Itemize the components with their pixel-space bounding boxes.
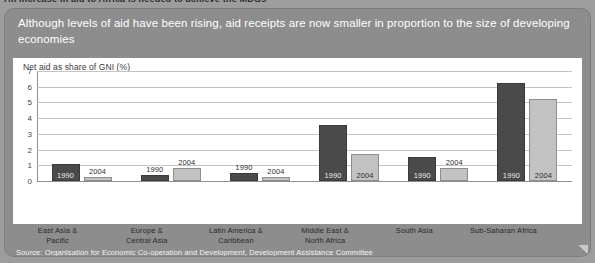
chart-title: Although levels of aid have been rising,… bbox=[5, 9, 590, 56]
bar-year-label-2004: 2004 bbox=[262, 167, 290, 176]
bar-group: 19902004 bbox=[319, 71, 379, 181]
bar-year-label-1990: 1990 bbox=[52, 171, 80, 180]
axis-x-line bbox=[37, 181, 572, 182]
y-axis-tick-7: 7 bbox=[18, 71, 32, 72]
bar-year-label-2004: 2004 bbox=[351, 171, 379, 180]
bar-year-label-1990: 1990 bbox=[230, 163, 258, 172]
category-label-6: Sub-Saharan Africa bbox=[451, 226, 556, 236]
bar-1990[interactable] bbox=[497, 83, 525, 181]
bar-year-label-2004: 2004 bbox=[529, 171, 557, 180]
bar-year-label-2004: 2004 bbox=[84, 167, 112, 176]
source-note: Source: Organisation for Economic Co-ope… bbox=[16, 248, 373, 256]
y-axis-tick-1: 1 bbox=[18, 165, 32, 166]
category-label-line: North Africa bbox=[273, 236, 378, 246]
bar-group: 19902004 bbox=[497, 71, 557, 181]
figure-page: An increase in aid to Africa is needed t… bbox=[0, 0, 595, 263]
bar-year-label-1990: 1990 bbox=[497, 171, 525, 180]
bar-1990[interactable] bbox=[230, 173, 258, 181]
page-corner-fold bbox=[579, 245, 588, 254]
y-axis-tick-5: 5 bbox=[18, 102, 32, 103]
y-axis-tick-4: 4 bbox=[18, 118, 32, 119]
bar-year-label-1990: 1990 bbox=[141, 165, 169, 174]
bar-group: 19902004 bbox=[141, 71, 201, 181]
clipped-heading-strip: An increase in aid to Africa is needed t… bbox=[0, 0, 595, 7]
bar-group: 19902004 bbox=[52, 71, 112, 181]
bar-year-label-2004: 2004 bbox=[440, 158, 468, 167]
bar-2004[interactable] bbox=[529, 99, 557, 181]
bar-1990[interactable] bbox=[141, 175, 169, 181]
y-axis-tick-2: 2 bbox=[18, 150, 32, 151]
bar-year-label-2004: 2004 bbox=[173, 158, 201, 167]
category-labels: East Asia &PacificEurope &Central AsiaLa… bbox=[13, 226, 582, 248]
chart-card: Although levels of aid have been rising,… bbox=[5, 9, 590, 256]
clipped-heading-text: An increase in aid to Africa is needed t… bbox=[4, 0, 266, 4]
bar-group: 19902004 bbox=[408, 71, 468, 181]
y-axis-tick-6: 6 bbox=[18, 87, 32, 88]
bar-2004[interactable] bbox=[440, 168, 468, 181]
bars-layer: 1990200419902004199020041990200419902004… bbox=[37, 71, 572, 181]
bar-2004[interactable] bbox=[84, 177, 112, 181]
bar-2004[interactable] bbox=[262, 177, 290, 181]
y-axis-tick-3: 3 bbox=[18, 134, 32, 135]
bar-2004[interactable] bbox=[173, 168, 201, 181]
bar-year-label-1990: 1990 bbox=[408, 171, 436, 180]
bar-group: 19902004 bbox=[230, 71, 290, 181]
bar-year-label-1990: 1990 bbox=[319, 171, 347, 180]
category-label-line: Sub-Saharan Africa bbox=[451, 226, 556, 236]
y-axis-tick-0: 0 bbox=[18, 181, 32, 182]
